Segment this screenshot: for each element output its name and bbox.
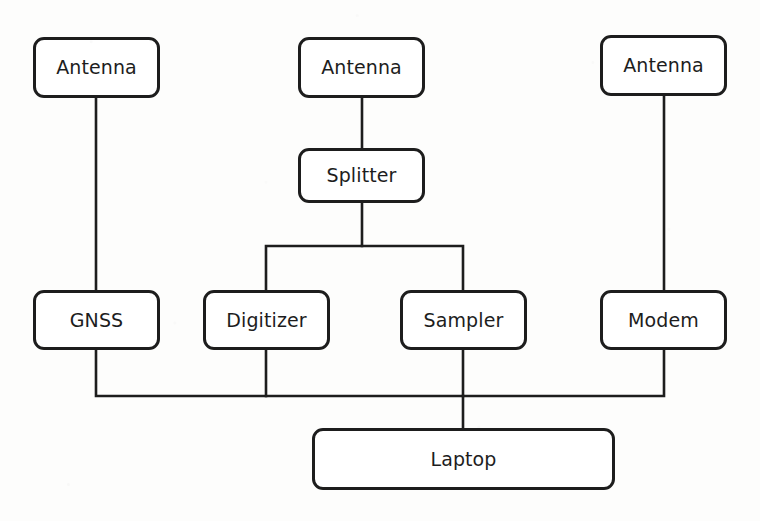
node-label: Modem — [628, 311, 699, 330]
node-modem: Modem — [600, 290, 727, 350]
connector-splitter-to-sampler — [362, 246, 463, 290]
block-diagram: Antenna Antenna Antenna Splitter GNSS Di… — [0, 0, 760, 521]
node-label: GNSS — [70, 311, 123, 330]
connector-gnss-to-bus — [96, 350, 463, 396]
node-label: Digitizer — [226, 311, 306, 330]
node-sampler: Sampler — [400, 290, 527, 350]
node-label: Antenna — [321, 58, 402, 77]
node-antenna-center: Antenna — [298, 37, 425, 98]
node-label: Splitter — [327, 166, 397, 185]
node-antenna-right: Antenna — [600, 35, 727, 96]
node-gnss: GNSS — [33, 290, 160, 350]
node-laptop: Laptop — [312, 428, 615, 490]
node-label: Laptop — [430, 450, 496, 469]
node-digitizer: Digitizer — [203, 290, 330, 350]
connector-modem-to-bus — [463, 350, 664, 396]
node-splitter: Splitter — [298, 148, 425, 203]
node-label: Sampler — [424, 311, 504, 330]
node-label: Antenna — [56, 58, 137, 77]
node-antenna-left: Antenna — [33, 37, 160, 98]
node-label: Antenna — [623, 56, 704, 75]
connector-splitter-to-digitizer — [266, 203, 362, 290]
